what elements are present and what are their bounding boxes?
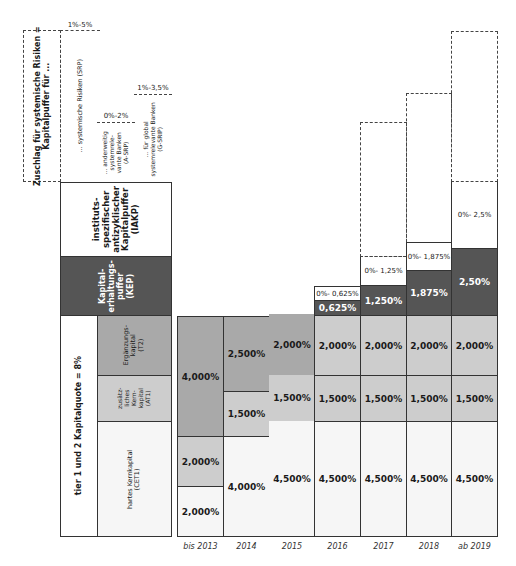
2015-t2-cell: 2,000% [269,314,315,376]
srp-range: 1%-5% [60,21,100,29]
year-label-bis2013: bis 2013 [177,542,224,551]
2016-cet1-cell: 4,500% [314,421,361,537]
2016-kep-cell: 0,625% [314,300,361,316]
2017-cet1-cell: 4,500% [360,421,407,537]
year-label-2015: 2015 [269,542,315,551]
year-label-2019: ab 2019 [451,542,498,551]
2018-at1-cell: 1,500% [406,375,452,422]
2018-t2-cell: 2,000% [406,315,452,376]
kep-label-box: Kapital- erhaltungs- puffer (KEP) [60,256,172,316]
iakp-label: instituts- spezifischer antizyklischer K… [92,186,141,253]
tier-label: tier 1 und 2 Kapitalquote = 8% [74,356,83,495]
gsrp-label: ... für global systemrelevante Banken (G… [143,102,164,176]
srp-label: ... systemische Risiken (SRP) [77,59,84,153]
2019-srp-outline [451,31,498,182]
2017-t2-cell: 2,000% [360,315,407,376]
2017-kep-cell: 1,250% [360,285,407,316]
year-label-2017: 2017 [360,542,407,551]
bis2013-cet1-cell: 2,000% [177,486,224,537]
2016-iakp-cell: 0%- 0,625% [314,286,361,301]
at1-label-box: zusätz- liches Kern- kapital (AT1) [97,375,172,422]
cet1-label: hartes Kernkapital (CET1) [127,449,142,508]
2018-kep-cell: 1,875% [406,270,452,316]
gsrp-range-line [134,94,172,95]
systemic-risk-surcharge-label: Zuschlag für systemische Risiken = Kapit… [33,26,51,186]
2018-srp-outline [406,93,452,243]
2018-iakp-cell: 0%- 1,875% [406,242,452,271]
2019-iakp-cell: 0%- 2,5% [451,181,498,249]
at1-label: zusätz- liches Kern- kapital (AT1) [117,388,151,409]
2015-cet1-cell: 4,500% [269,421,315,537]
gsrp-label-box: ... für global systemrelevante Banken (G… [134,96,172,182]
cet1-label-box: hartes Kernkapital (CET1) [97,421,172,537]
tier-label-box: tier 1 und 2 Kapitalquote = 8% [60,315,98,537]
2016-t2-cell: 2,000% [314,315,361,376]
asrp-range: 0%-2% [97,112,135,120]
2017-at1-cell: 1,500% [360,375,407,422]
gsrp-range: 1%-3,5% [134,84,172,92]
bis2013-at1-cell: 2,000% [177,436,224,487]
iakp-label-box: instituts- spezifischer antizyklischer K… [60,182,172,257]
2018-cet1-cell: 4,500% [406,421,452,537]
asrp-label-box: ... anderweitig systemrele- vante Banken… [97,124,135,182]
year-label-2018: 2018 [406,542,452,551]
systemic-risk-surcharge-label-box: Zuschlag für systemische Risiken = Kapit… [23,30,61,182]
year-label-2016: 2016 [314,542,361,551]
asrp-label: ... anderweitig systemrele- vante Banken… [102,131,130,174]
2019-at1-cell: 1,500% [451,375,498,422]
2016-at1-cell: 1,500% [314,375,361,422]
2019-kep-cell: 2,50% [451,248,498,316]
2017-iakp-dashed-top [360,256,406,257]
srp-range-line [60,30,100,31]
2019-t2-cell: 2,000% [451,315,498,376]
kep-label: Kapital- erhaltungs- puffer (KEP) [98,260,135,312]
asrp-range-line [97,122,135,123]
2015-at1-cell: 1,500% [269,375,315,422]
2014-cet1-cell: 4,000% [223,436,270,537]
2014-at1-cell: 1,500% [223,391,270,437]
2014-t2-cell: 2,500% [223,316,270,392]
year-label-2014: 2014 [223,542,270,551]
2017-iakp-cell: 0%- 1,25% [360,256,407,286]
bis2013-t2-cell: 4,000% [177,316,224,437]
srp-label-box: ... systemische Risiken (SRP) [60,30,100,182]
2019-cet1-cell: 4,500% [451,421,498,537]
t2-label: Ergänzungs- kapital (T2) [123,325,145,365]
2017-srp-outline [360,122,407,257]
t2-label-box: Ergänzungs- kapital (T2) [97,315,172,376]
